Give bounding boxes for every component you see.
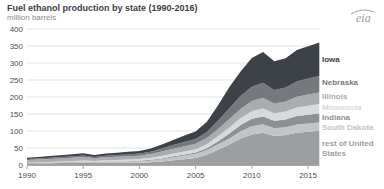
- y-tick-label-200: 200: [10, 93, 24, 102]
- chart-legend: IowaNebraskaIllinoisMinnesotaIndianaSout…: [322, 0, 384, 189]
- legend-item-indiana: Indiana: [322, 113, 382, 123]
- y-tick-label-400: 400: [10, 25, 24, 34]
- legend-item-illinois: Illinois: [322, 92, 382, 102]
- y-tick-label-100: 100: [10, 127, 24, 136]
- x-tick-label-2000: 2000: [131, 171, 149, 180]
- x-tick-label-2015: 2015: [299, 171, 317, 180]
- legend-item-minnesota: Minnesota: [322, 103, 382, 113]
- y-tick-label-0: 0: [19, 161, 24, 170]
- x-tick-label-1995: 1995: [74, 171, 92, 180]
- legend-item-rest-of-united-states: rest of United States: [322, 139, 382, 158]
- y-tick-label-300: 300: [10, 59, 24, 68]
- legend-item-south-dakota: South Dakota: [322, 123, 382, 133]
- x-tick-label-2005: 2005: [187, 171, 205, 180]
- legend-item-iowa: Iowa: [322, 55, 382, 65]
- y-tick-label-350: 350: [10, 42, 24, 51]
- x-tick-label-1990: 1990: [18, 171, 36, 180]
- x-tick-label-2010: 2010: [243, 171, 261, 180]
- y-tick-label-250: 250: [10, 76, 24, 85]
- y-tick-label-50: 50: [14, 144, 23, 153]
- y-tick-label-150: 150: [10, 110, 24, 119]
- legend-item-nebraska: Nebraska: [322, 78, 382, 88]
